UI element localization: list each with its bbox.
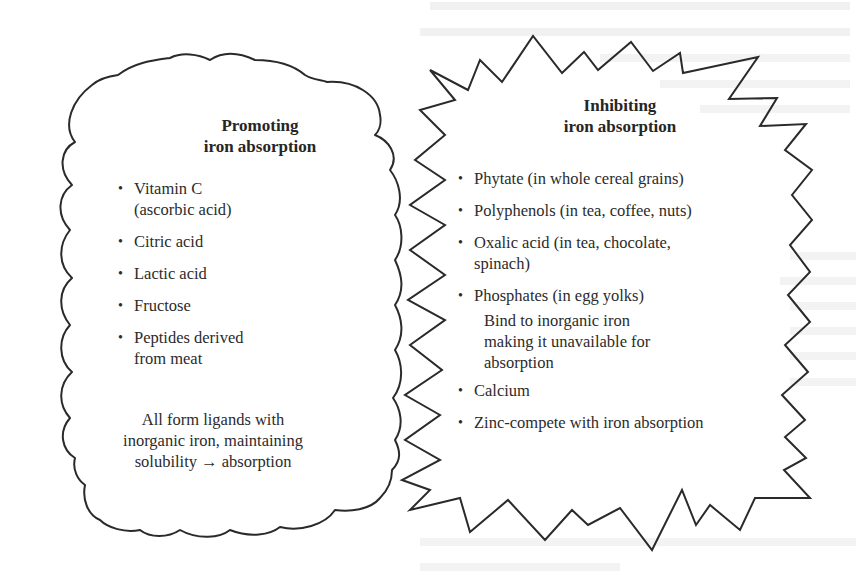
promoting-title-line1: Promoting (140, 115, 380, 136)
bullet-icon: • (118, 295, 123, 316)
list-item-oxalic-acid: • Oxalic acid (in tea, chocolate, spinac… (456, 232, 776, 274)
bullet-icon: • (118, 178, 123, 199)
bullet-icon: • (458, 412, 463, 433)
inhibiting-panel-title: Inhibiting iron absorption (540, 95, 700, 137)
bullet-icon: • (458, 380, 463, 401)
list-item-phytate: • Phytate (in whole cereal grains) (456, 168, 776, 189)
bullet-icon: • (458, 168, 463, 189)
list-item-zinc: • Zinc-compete with iron absorption (456, 412, 776, 433)
inhibiting-mechanism-note: Bind to inorganic iron making it unavail… (456, 310, 776, 373)
list-item-lactic-acid: • Lactic acid (116, 263, 336, 284)
bullet-icon: • (118, 263, 123, 284)
bullet-icon: • (458, 285, 463, 306)
inhibiting-factors-list: • Phytate (in whole cereal grains) • Pol… (456, 168, 776, 444)
list-item-vitamin-c: • Vitamin C (ascorbic acid) (116, 178, 336, 220)
list-item-fructose: • Fructose (116, 295, 336, 316)
list-item-citric-acid: • Citric acid (116, 231, 336, 252)
promoting-panel-title: Promoting iron absorption (140, 115, 380, 157)
inhibiting-title-line1: Inhibiting (540, 95, 700, 116)
inhibiting-title-line2: iron absorption (540, 116, 700, 137)
list-item-peptides: • Peptides derived from meat (116, 327, 336, 369)
list-item-phosphates: • Phosphates (in egg yolks) (456, 285, 776, 306)
promoting-mechanism-note: All form ligands with inorganic iron, ma… (88, 409, 338, 472)
bullet-icon: • (118, 231, 123, 252)
promoting-factors-list: • Vitamin C (ascorbic acid) • Citric aci… (116, 178, 336, 380)
list-item-calcium: • Calcium (456, 380, 776, 401)
bullet-icon: • (458, 232, 463, 253)
bullet-icon: • (118, 327, 123, 348)
bullet-icon: • (458, 200, 463, 221)
promoting-title-line2: iron absorption (140, 136, 380, 157)
list-item-polyphenols: • Polyphenols (in tea, coffee, nuts) (456, 200, 776, 221)
